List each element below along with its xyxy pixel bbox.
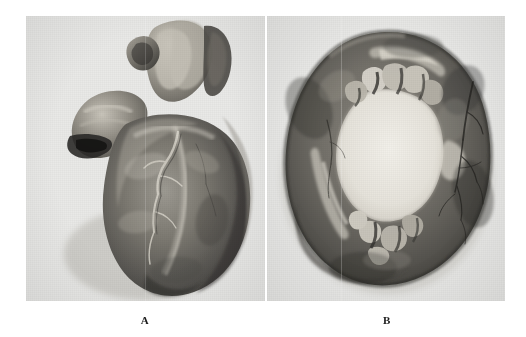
panel-label-b: B	[380, 314, 394, 326]
panel-b-photograph	[267, 16, 505, 301]
heart-cross-section-illustration	[267, 16, 505, 301]
plate-fold-line-a	[145, 16, 146, 301]
panel-a-photograph	[26, 16, 265, 301]
figure-plate: A B	[0, 0, 526, 337]
panel-label-a: A	[138, 314, 152, 326]
plate-fold-line-b	[341, 16, 342, 301]
